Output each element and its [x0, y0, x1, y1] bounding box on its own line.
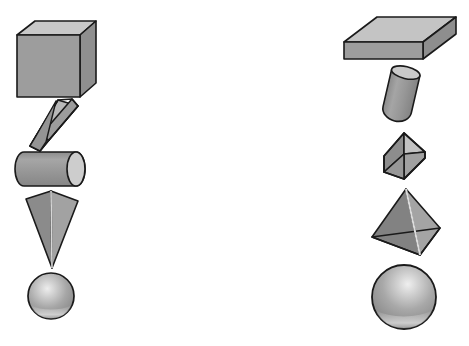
slab-front-face: [344, 42, 423, 59]
shapes-canvas: [0, 0, 469, 346]
shape-large-sphere[interactable]: [372, 265, 436, 329]
shape-inverted-cone[interactable]: [26, 191, 78, 268]
shape-small-sphere[interactable]: [28, 273, 74, 319]
left-column: [15, 21, 96, 319]
shape-diamond[interactable]: [384, 133, 425, 179]
inverted-cone-left-face: [26, 191, 52, 268]
cube-right-face: [80, 21, 96, 97]
inverted-cone-right-face: [51, 191, 78, 268]
shape-flat-slab[interactable]: [344, 17, 456, 59]
right-column: [344, 17, 456, 329]
cylinder-right-cap: [67, 152, 85, 186]
inverted-cone-center-edge: [51, 191, 52, 268]
shape-cube[interactable]: [17, 21, 96, 97]
shape-pyramid[interactable]: [372, 189, 440, 255]
cube-front-face: [17, 35, 80, 97]
shape-small-cylinder[interactable]: [380, 63, 421, 124]
shape-tilted-bar[interactable]: [30, 99, 78, 151]
shapes-scene: [0, 0, 469, 346]
shape-horizontal-cylinder[interactable]: [15, 152, 85, 186]
